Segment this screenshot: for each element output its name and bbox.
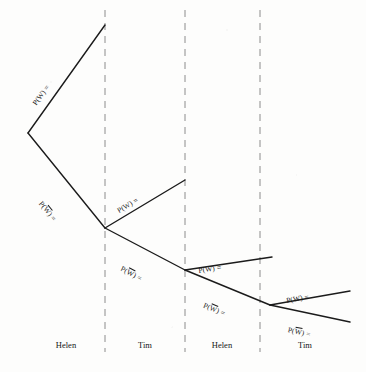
stage-label-1: Helen <box>36 340 96 350</box>
tree-branches <box>28 25 350 322</box>
stage-label-2: Tim <box>115 340 175 350</box>
probability-tree-diagram: P(W) =P(W) =P(W) =P(W) =P(W) =P(W) =P(W)… <box>0 0 366 372</box>
stage-label-3: Helen <box>192 340 252 350</box>
tree-branch-b8 <box>270 305 350 322</box>
stage-label-4: Tim <box>275 340 335 350</box>
tree-branch-b2 <box>28 133 105 228</box>
tree-branch-b1 <box>28 25 105 133</box>
tree-branch-b3 <box>105 180 185 228</box>
label-suffix: ) = <box>301 328 312 339</box>
label-suffix: ) = <box>212 263 222 273</box>
tree-branch-b4 <box>105 228 185 270</box>
tree-canvas <box>0 0 366 372</box>
tree-branch-b7 <box>270 291 350 305</box>
tree-branch-b6 <box>185 270 270 305</box>
label-suffix: ) = <box>299 292 309 302</box>
